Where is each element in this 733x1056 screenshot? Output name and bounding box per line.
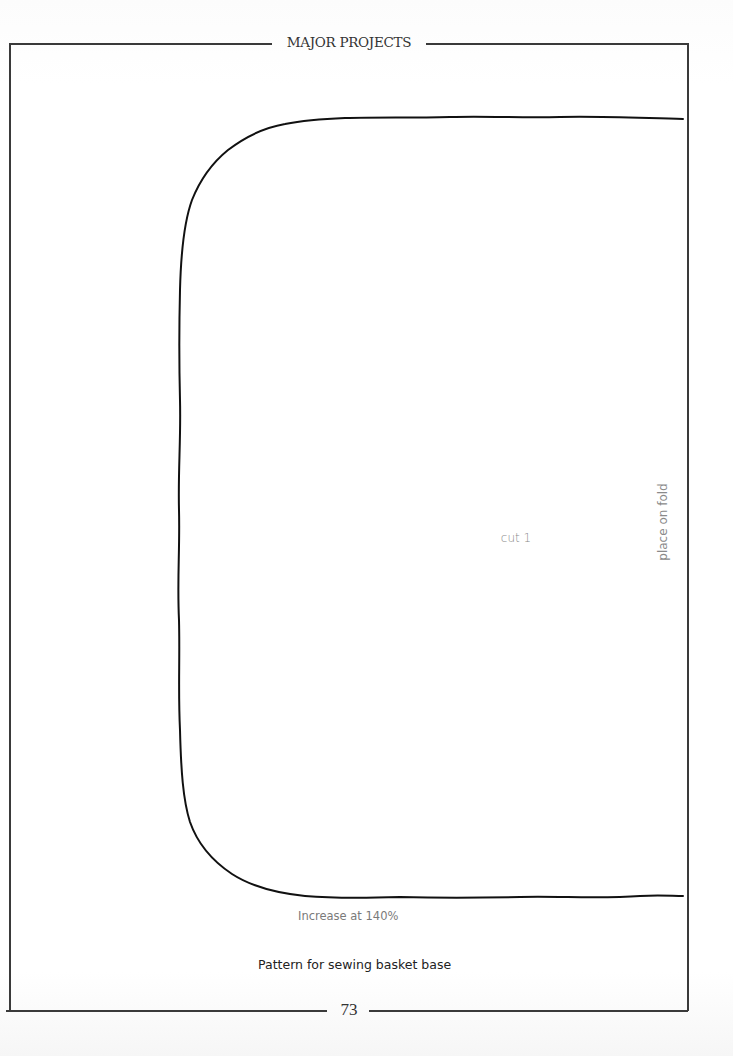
fold-instruction: place on fold [655, 482, 671, 562]
figure-caption: Pattern for sewing basket base [258, 956, 438, 974]
page-number: 73 [330, 1000, 368, 1020]
document-page: MAJOR PROJECTS cut 1 place on fold Incre… [0, 0, 733, 1056]
cut-instruction: cut 1 [498, 530, 534, 546]
scale-instruction: Increase at 140% [298, 908, 400, 924]
pattern-outline [0, 0, 733, 1056]
